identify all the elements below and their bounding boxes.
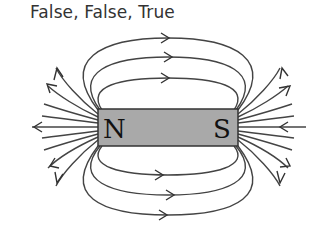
field-line-bottom-inner (98, 146, 238, 175)
magnetic-field-diagram: N S (0, 0, 325, 240)
field-line-bottom-middle (91, 146, 246, 195)
north-pole-label: N (103, 114, 126, 144)
field-line-top-outer (83, 38, 252, 110)
field-line-top-inner (98, 78, 238, 110)
south-pole-label: S (213, 114, 231, 144)
field-line-bottom-outer (83, 146, 252, 215)
